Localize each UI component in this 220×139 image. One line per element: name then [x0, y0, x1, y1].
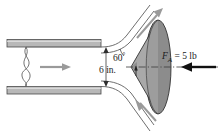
- engineering-figure: 60° 6 in. FA = 5 lb: [0, 0, 220, 139]
- angle-label: 60°: [113, 52, 125, 64]
- diameter-label: 6 in.: [99, 66, 116, 76]
- pipe-top-wall: [7, 40, 101, 48]
- pipe-break-squiggle: [22, 47, 30, 87]
- applied-force-label: FA = 5 lb: [162, 52, 197, 64]
- pipe-bottom-wall: [7, 87, 101, 95]
- flow-direction-arrow: [40, 63, 71, 71]
